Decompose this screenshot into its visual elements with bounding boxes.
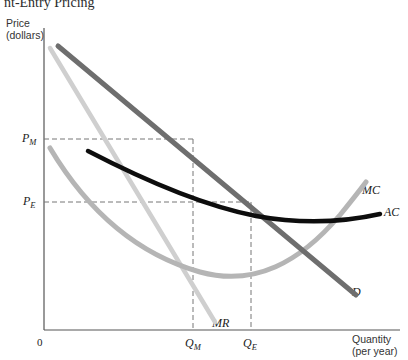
curve-marginal-cost — [50, 148, 366, 276]
plot-area — [0, 0, 408, 360]
curve-demand — [58, 46, 356, 295]
chart-canvas: nt-Entry Pricing Price (dollars) Quantit… — [0, 0, 408, 360]
